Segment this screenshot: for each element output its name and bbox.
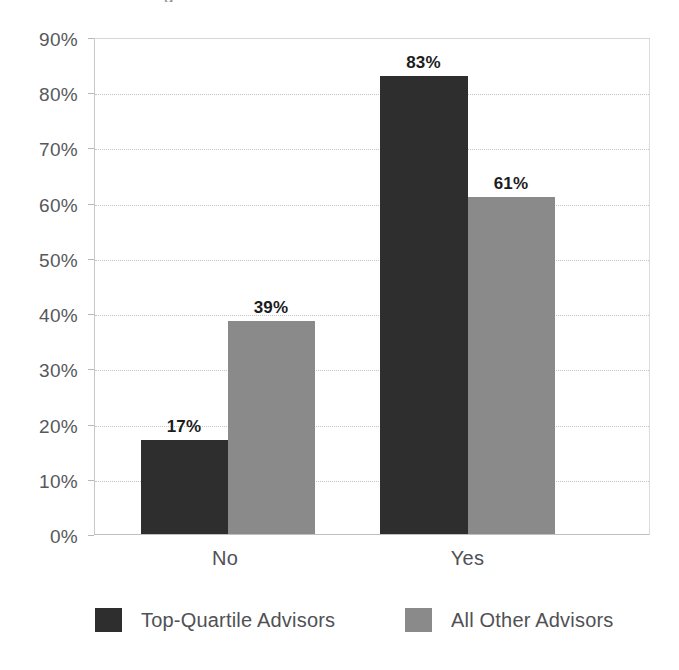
legend-entry-all-other-advisors: All Other Advisors [405,605,614,635]
bar-value-label-yes-all-other: 61% [467,175,555,192]
plot-area [94,38,650,535]
legend-label-all-other-advisors: All Other Advisors [451,608,614,632]
bar-no-all-other-advisors [228,321,315,534]
legend-entry-top-quartile-advisors: Top-Quartile Advisors [95,605,335,635]
y-tick-label-30: 30% [39,361,78,380]
legend-swatch-icon-top-quartile-advisors [95,608,122,632]
bar-no-top-quartile-advisors [141,440,228,534]
gridline-60 [95,205,649,206]
legend-swatch-icon-all-other-advisors [405,608,432,632]
y-tick-label-80: 80% [39,85,78,104]
bar-yes-top-quartile-advisors [380,76,468,534]
y-tick-label-50: 50% [39,251,78,270]
y-tick-label-70: 70% [39,140,78,159]
y-tick-label-0: 0% [50,527,78,546]
y-axis: 90% 80% 70% 60% 50% 40% 30% 20% 10% 0% [0,0,86,670]
legend-label-top-quartile-advisors: Top-Quartile Advisors [141,608,335,632]
y-tick-label-10: 10% [39,472,78,491]
bar-value-label-no-all-other: 39% [227,299,315,316]
bar-value-label-yes-top-quartile: 83% [379,54,468,71]
bar-chart-figure: g 90% 80% 70% 60% 50% 40% 30% 20% 10% 0% [0,0,679,670]
gridline-50 [95,260,649,261]
x-category-label-yes: Yes [423,548,512,568]
y-tick-label-90: 90% [39,30,78,49]
y-tick-label-20: 20% [39,417,78,436]
gridline-40 [95,315,649,316]
gridline-30 [95,370,649,371]
chart-legend: Top-Quartile Advisors All Other Advisors [0,605,679,645]
bar-value-label-no-top-quartile: 17% [140,418,228,435]
cropped-title-remnant: g [164,0,190,2]
x-category-label-no: No [181,548,269,568]
y-tick-label-40: 40% [39,306,78,325]
y-tickmark-0 [88,535,94,536]
y-tick-label-60: 60% [39,196,78,215]
bar-yes-all-other-advisors [468,197,555,534]
gridline-80 [95,94,649,95]
gridline-70 [95,149,649,150]
